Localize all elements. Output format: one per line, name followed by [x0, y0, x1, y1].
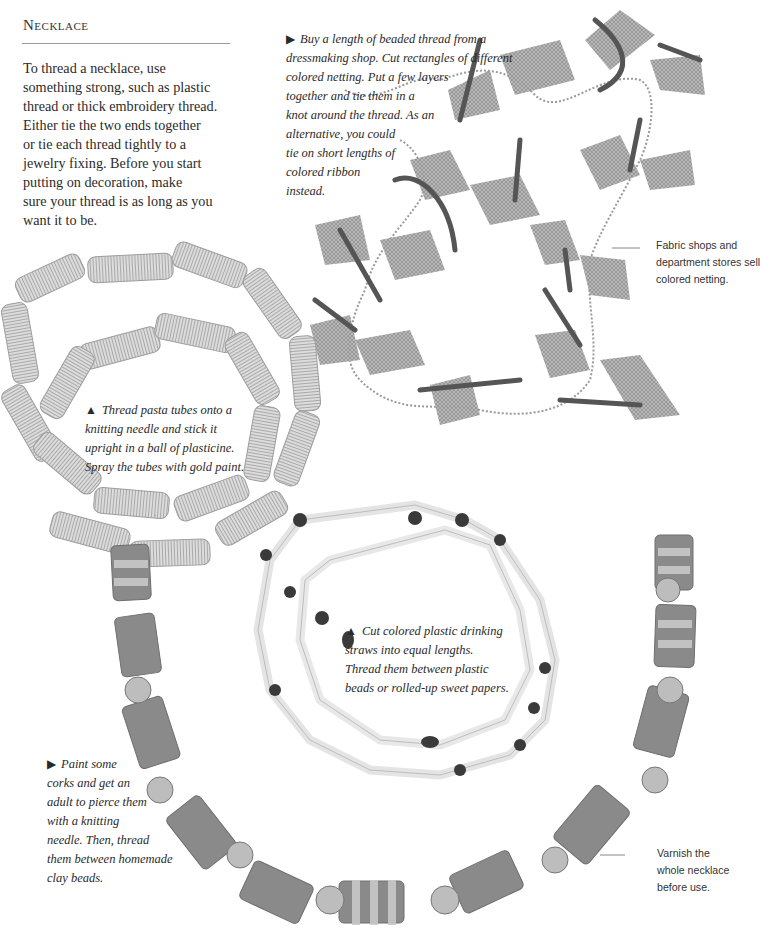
corks-caption: ▶Paint some corks and get an adult to pi… [47, 755, 197, 888]
intro-paragraph: To thread a necklace, use something stro… [23, 59, 248, 230]
intro-line: Either tie the two ends together [23, 116, 248, 135]
up-triangle-bullet-icon: ▲ [85, 403, 97, 417]
intro-line: want it to be. [23, 211, 248, 230]
cork-necklace-image [111, 535, 696, 925]
right-triangle-bullet-icon: ▶ [286, 32, 295, 46]
right-triangle-bullet-icon: ▶ [47, 757, 56, 771]
straws-caption: ▲Cut colored plastic drinking straws int… [345, 622, 545, 698]
fabric-note: Fabric shops and department stores sell … [656, 237, 756, 288]
varnish-note: Varnish the whole necklace before use. [657, 845, 752, 896]
intro-line: jewelry fixing. Before you start [23, 154, 248, 173]
intro-line: or tie each thread tightly to a [23, 135, 248, 154]
intro-line: sure your thread is as long as you [23, 192, 248, 211]
intro-line: thread or thick embroidery thread. [23, 97, 248, 116]
netting-caption: ▶Buy a length of beaded thread from a dr… [286, 30, 516, 201]
page-title: Necklace [23, 17, 89, 34]
pasta-caption: ▲Thread pasta tubes onto a knitting need… [85, 401, 285, 477]
intro-line: putting on decoration, make [23, 173, 248, 192]
heading-rule [22, 43, 230, 44]
intro-line: something strong, such as plastic [23, 78, 248, 97]
intro-line: To thread a necklace, use [23, 59, 248, 78]
up-triangle-bullet-icon: ▲ [345, 624, 357, 638]
